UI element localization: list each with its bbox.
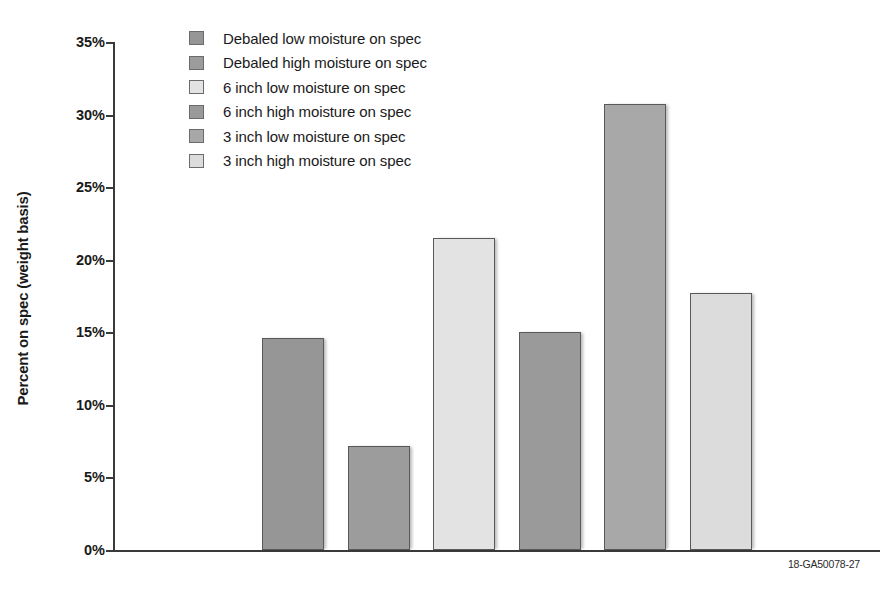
y-tick-mark (106, 332, 114, 334)
y-tick-mark (106, 260, 114, 262)
legend-item-5: 3 inch low moisture on spec (189, 126, 427, 146)
legend-swatch-icon (189, 154, 204, 168)
y-tick-mark (106, 477, 114, 479)
y-tick-label: 5% (84, 469, 105, 485)
y-tick-mark (106, 405, 114, 407)
figure-caption: 18-GA50078-27 (788, 558, 860, 570)
bar-5 (604, 104, 666, 550)
legend-item-label: 6 inch low moisture on spec (223, 79, 405, 96)
legend-item-2: Debaled high moisture on spec (189, 53, 427, 73)
bar-4 (519, 332, 581, 550)
bar-3 (433, 238, 495, 550)
legend-swatch-icon (189, 56, 204, 70)
bar-6 (690, 293, 752, 550)
y-tick-label: 35% (76, 34, 105, 50)
y-tick-label: 25% (76, 179, 105, 195)
legend-swatch-icon (189, 129, 204, 143)
y-tick-mark (106, 115, 114, 117)
y-tick-label: 15% (76, 324, 105, 340)
legend-item-6: 3 inch high moisture on spec (189, 151, 427, 171)
y-tick-label: 30% (76, 107, 105, 123)
legend-item-4: 6 inch high moisture on spec (189, 102, 427, 122)
y-tick-mark (106, 187, 114, 189)
y-tick-mark (106, 42, 114, 44)
bar-2 (348, 446, 410, 551)
legend-item-label: Debaled low moisture on spec (223, 30, 421, 47)
legend-item-1: Debaled low moisture on spec (189, 28, 427, 48)
bar-chart-figure: Percent on spec (weight basis) 0%5%10%15… (0, 0, 882, 597)
y-tick-label: 10% (76, 397, 105, 413)
y-axis-title: Percent on spec (weight basis) (0, 0, 44, 597)
legend-item-3: 6 inch low moisture on spec (189, 77, 427, 97)
y-tick-label: 20% (76, 252, 105, 268)
legend-item-label: 6 inch high moisture on spec (223, 103, 411, 120)
y-axis-line (113, 42, 115, 551)
legend-item-label: Debaled high moisture on spec (223, 54, 427, 71)
bar-1 (262, 338, 324, 550)
legend-swatch-icon (189, 80, 204, 94)
legend-item-label: 3 inch low moisture on spec (223, 128, 405, 145)
y-tick-label: 0% (84, 542, 105, 558)
x-axis-line (113, 550, 880, 552)
y-tick-mark (106, 550, 114, 552)
legend-item-label: 3 inch high moisture on spec (223, 152, 411, 169)
legend-swatch-icon (189, 31, 204, 45)
legend-swatch-icon (189, 105, 204, 119)
chart-legend: Debaled low moisture on specDebaled high… (189, 28, 427, 171)
